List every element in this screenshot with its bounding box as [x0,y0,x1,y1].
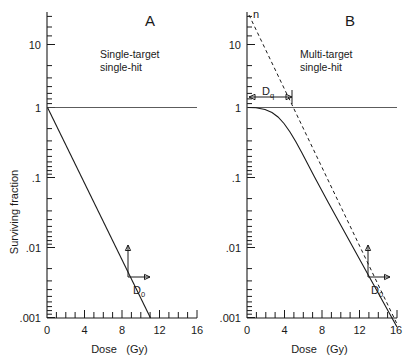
panel-b-model-line2: single-hit [300,61,342,73]
panel-a: D 0 10 1 .1 .01 .001 0 4 8 12 16 Dose (G… [8,12,203,355]
panel-b-xtick-8: 8 [319,324,325,336]
panel-b-ytick-10: 10 [229,39,241,51]
panel-a-ytick-10: 10 [29,39,41,51]
panel-a-x-ticks [56,310,197,318]
panel-a-xtick-16: 16 [191,324,203,336]
panel-a-model-line1: Single-target [100,48,160,60]
panel-a-d0-subscript: 0 [141,290,145,299]
panel-b-xtick-16: 16 [390,324,402,336]
panel-b-xtick-4: 4 [281,324,287,336]
panel-b-model-line1: Multi-target [300,48,353,60]
panel-a-xtick-4: 4 [81,324,87,336]
panel-a-model-line2: single-hit [100,61,142,73]
panel-b-label: B [345,12,355,29]
panel-b-ytick-1: 1 [235,102,241,114]
panel-a-ytick-0p001: .001 [20,312,41,324]
panel-b-ytick-0p001: .001 [220,312,241,324]
panel-a-y-major-ticks [47,45,55,318]
panel-a-xaxis-title: Dose [91,343,117,355]
panel-b-d0-subscript: 0 [379,290,383,299]
panel-b-d0-label: D [371,284,379,296]
panel-b-xtick-0: 0 [244,324,250,336]
panel-a-label: A [145,12,155,29]
panel-a-ytick-0p01: .01 [26,242,41,254]
panel-a-ytick-1: 1 [35,102,41,114]
panel-b-y-major-ticks [247,45,255,318]
figure-root: D 0 10 1 .1 .01 .001 0 4 8 12 16 Dose (G… [0,0,404,362]
panel-a-yaxis-title: Surviving fraction [8,170,20,254]
panel-a-d0-label: D [133,284,141,296]
panel-b-xtick-12: 12 [353,324,365,336]
panel-a-xtick-8: 8 [119,324,125,336]
survival-curves-figure: D 0 10 1 .1 .01 .001 0 4 8 12 16 Dose (G… [0,0,404,362]
panel-b-y-minor-ticks [247,16,252,314]
panel-a-xaxis-unit: (Gy) [126,343,147,355]
panel-b-n-label: n [253,8,259,20]
panel-b-x-ticks [256,310,397,318]
panel-a-xtick-0: 0 [44,324,50,336]
panel-a-ytick-0p1: .1 [32,172,41,184]
panel-b-xaxis-title: Dose [291,343,317,355]
panel-b-d0-marker [365,245,390,280]
panel-b-ytick-0p1: .1 [232,172,241,184]
panel-b-dq-label: D [262,85,270,97]
panel-b-dq-subscript: q [270,91,274,100]
panel-b: D q n D 0 10 1 .1 .01 .001 0 4 8 12 16 D… [220,8,403,355]
panel-b-ytick-0p01: .01 [226,242,241,254]
panel-a-xtick-12: 12 [153,324,165,336]
panel-b-xaxis-unit: (Gy) [326,343,347,355]
panel-a-y-minor-ticks [47,16,52,314]
